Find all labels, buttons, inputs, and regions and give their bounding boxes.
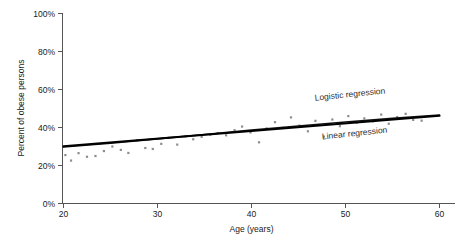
y-axis-title: Percent of obese persons — [16, 60, 26, 157]
scatter-point — [127, 152, 129, 154]
logistic-regression-label: Logistic regression — [314, 85, 386, 102]
scatter-point — [192, 138, 194, 140]
x-axis-title: Age (years) — [230, 224, 274, 234]
scatter-point — [421, 120, 423, 122]
chart-figure: 100% 80% 60% 40% 20% 0% 20 30 40 50 60 A… — [0, 0, 464, 241]
y-tick-label: 20% — [38, 161, 55, 171]
x-tick-label: 40 — [247, 209, 257, 219]
x-tick-label: 30 — [153, 209, 163, 219]
y-axis-ticks — [58, 14, 63, 204]
scatter-point — [152, 148, 154, 150]
x-tick-label: 50 — [341, 209, 351, 219]
scatter-point — [120, 149, 122, 151]
y-tick-label: 60% — [38, 85, 55, 95]
y-tick-label: 40% — [38, 123, 55, 133]
scatter-point — [225, 134, 227, 136]
scatter-point — [274, 121, 276, 123]
scatter-point — [363, 117, 365, 119]
x-axis-tick-labels: 20 30 40 50 60 — [59, 209, 445, 219]
obesity-vs-age-scatter-chart: 100% 80% 60% 40% 20% 0% 20 30 40 50 60 A… — [0, 0, 464, 241]
scatter-point — [412, 119, 414, 121]
y-tick-label: 100% — [33, 9, 55, 19]
scatter-point — [111, 145, 113, 147]
x-tick-label: 60 — [435, 209, 445, 219]
scatter-point — [103, 150, 105, 152]
scatter-point — [176, 144, 178, 146]
scatter-point — [347, 115, 349, 117]
scatter-point — [94, 155, 96, 157]
scatter-point — [144, 147, 146, 149]
y-tick-label: 0% — [43, 199, 56, 209]
scatter-point — [331, 118, 333, 120]
scatter-point — [380, 113, 382, 115]
scatter-point — [258, 141, 260, 143]
scatter-point — [241, 125, 243, 127]
linear-regression-label: Linear regression — [321, 125, 388, 142]
scatter-point — [339, 125, 341, 127]
scatter-point — [64, 154, 66, 156]
scatter-point — [314, 120, 316, 122]
scatter-point — [160, 143, 162, 145]
scatter-point — [307, 130, 309, 132]
scatter-point — [290, 116, 292, 118]
scatter-point — [388, 123, 390, 125]
x-tick-label: 20 — [59, 209, 69, 219]
scatter-point — [77, 152, 79, 154]
scatter-point — [405, 113, 407, 115]
y-tick-label: 80% — [38, 47, 55, 57]
x-axis-ticks — [64, 204, 440, 209]
scatter-point — [70, 159, 72, 161]
scatter-point — [86, 156, 88, 158]
y-axis-tick-labels: 100% 80% 60% 40% 20% 0% — [33, 9, 55, 209]
